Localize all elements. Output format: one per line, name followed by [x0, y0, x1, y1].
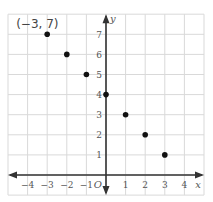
x-axis-arrow-left-icon [8, 172, 17, 179]
y-tick-label: 2 [96, 130, 102, 140]
y-tick-label: 5 [96, 70, 102, 80]
y-tick-label: 1 [96, 150, 102, 160]
y-axis-arrow-down-icon [103, 186, 110, 195]
x-tick-label: 4 [182, 180, 188, 190]
x-tick-label: 3 [162, 180, 168, 190]
x-tick-label: 2 [142, 180, 148, 190]
x-tick-label: −2 [60, 180, 73, 190]
x-axis-arrow-right-icon [195, 172, 204, 179]
y-tick-label: 3 [96, 110, 102, 120]
x-axis-label: x [195, 179, 201, 190]
data-point [162, 152, 168, 158]
y-axis-label: y [109, 13, 116, 24]
annotations: (−3, 7) [16, 17, 58, 31]
data-point [103, 92, 109, 98]
axes [8, 14, 204, 195]
y-axis-arrow-up-icon [103, 14, 110, 23]
coordinate-plane: −4−3−2−112341234567Oxy (−3, 7) [0, 0, 213, 202]
y-tick-label: 7 [96, 30, 102, 40]
data-point [123, 112, 129, 118]
data-point [84, 72, 90, 78]
origin-label: O [94, 179, 102, 190]
y-tick-label: 6 [96, 50, 102, 60]
tick-labels: −4−3−2−112341234567Oxy [21, 13, 201, 190]
point-annotation: (−3, 7) [16, 17, 58, 31]
x-tick-label: −1 [80, 180, 93, 190]
x-tick-label: −3 [41, 180, 55, 190]
x-tick-label: −4 [21, 180, 35, 190]
x-tick-label: 1 [123, 180, 129, 190]
y-tick-label: 4 [96, 90, 102, 100]
data-point [44, 32, 50, 38]
data-point [64, 52, 70, 58]
data-point [142, 132, 148, 138]
